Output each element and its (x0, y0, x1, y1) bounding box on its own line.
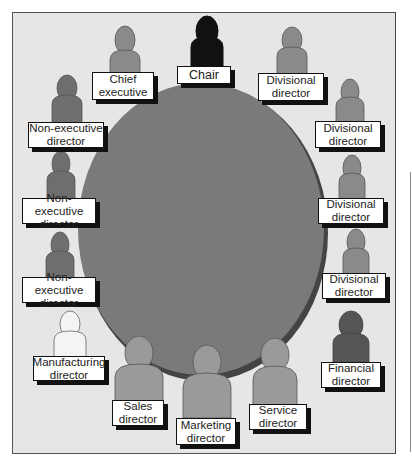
figure-divisional-director-2-icon (336, 79, 364, 124)
figure-divisional-director-4-icon (343, 229, 369, 275)
seat-label-sales-director: Sales director (112, 400, 164, 426)
figure-non-executive-director-1-icon (52, 75, 82, 124)
seat-label-chief-executive: Chief executive (92, 72, 154, 100)
seat-label-divisional-director-1: Divisional director (258, 73, 324, 101)
figure-chief-executive-icon (110, 26, 140, 77)
figure-divisional-director-3-icon (339, 155, 365, 199)
seat-label-divisional-director-2: Divisional director (315, 121, 381, 148)
seat-label-divisional-director-4: Divisional director (322, 273, 386, 299)
figure-manufacturing-director-icon (54, 311, 86, 358)
boardroom-table (78, 83, 324, 375)
seat-label-divisional-director-3: Divisional director (318, 198, 384, 224)
figure-divisional-director-1-icon (277, 27, 307, 75)
seat-label-manufacturing-director: Manufacturing director (33, 356, 105, 381)
figure-chair-icon (191, 16, 223, 68)
seat-label-marketing-director: Marketing director (176, 418, 236, 445)
seat-label-financial-director: Financial director (321, 362, 381, 388)
figure-financial-director-icon (333, 311, 369, 363)
seat-label-service-director: Service director (249, 404, 307, 430)
seat-label-non-executive-director-1: Non-executive director (28, 122, 104, 148)
seat-label-chair: Chair (177, 66, 231, 84)
seat-label-non-executive-director-3: Non-executive director (22, 277, 96, 303)
seat-label-non-executive-director-2: Non-executive director (22, 198, 96, 224)
